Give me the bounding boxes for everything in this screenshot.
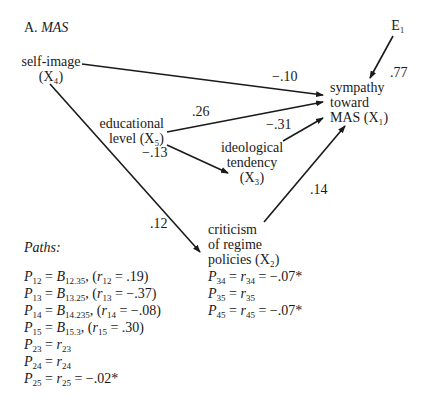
coef-e1-x1: .77 [390, 65, 408, 81]
node-x5-label2: level (X₅) [98, 131, 164, 146]
node-x1-label3: MAS (X₁) [330, 110, 410, 125]
node-x2-label1: criticism [208, 222, 298, 237]
node-x2-label2: of regime [208, 237, 298, 252]
node-e1-error: E₁ [386, 18, 410, 33]
equation-p45: P45 = r45 = −.07* [208, 303, 302, 323]
coef-x3-x1: −.31 [266, 117, 291, 133]
node-x5-educational-level: educational level (X₅) [98, 116, 164, 146]
node-x4-var: (X₄) [20, 69, 82, 84]
coef-x5-x3: −.13 [142, 145, 167, 161]
node-x1-label1: sympathy [330, 80, 410, 95]
coef-x2-x1: .14 [310, 182, 328, 198]
node-x3-label2: tendency [218, 155, 286, 170]
diagram-title: A. MAS [24, 20, 68, 36]
node-x5-label1: educational [98, 116, 164, 131]
title-prefix: A. [24, 20, 38, 35]
equation-p25: P25 = r25 = −.02* [24, 371, 118, 391]
node-x2-criticism: criticism of regime policies (X₂) [208, 222, 298, 267]
coef-x5-x1: .26 [192, 104, 210, 120]
node-x1-label2: toward [330, 95, 410, 110]
paths-heading: Paths: [24, 240, 61, 256]
arrow-x4-x2 [50, 84, 200, 252]
node-x3-label1: ideological [218, 140, 286, 155]
node-x2-label3: policies (X₂) [208, 252, 298, 267]
node-x4-label: self-image [20, 54, 82, 69]
coef-x4-x1: −.10 [272, 69, 297, 85]
title-name: MAS [41, 20, 68, 35]
node-x4-self-image: self-image (X₄) [20, 54, 82, 84]
node-x3-var: (X₃) [218, 170, 286, 185]
node-e1-label: E₁ [386, 18, 410, 33]
node-x1-sympathy: sympathy toward MAS (X₁) [330, 80, 410, 125]
node-x3-ideological-tendency: ideological tendency (X₃) [218, 140, 286, 185]
coef-x4-x2: .12 [150, 216, 168, 232]
arrow-x5-x1 [167, 102, 323, 132]
